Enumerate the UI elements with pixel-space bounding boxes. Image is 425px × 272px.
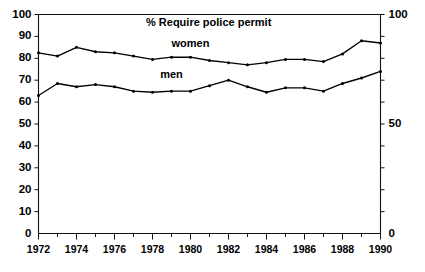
data-point bbox=[37, 51, 40, 54]
line-chart: 0102030405060708090100 050100 1972197419… bbox=[0, 0, 425, 272]
data-point bbox=[303, 58, 306, 61]
data-point bbox=[284, 86, 287, 89]
chart-container: 0102030405060708090100 050100 1972197419… bbox=[0, 0, 425, 272]
data-point bbox=[360, 77, 363, 80]
x-axis-tick-label: 1984 bbox=[255, 243, 279, 255]
data-point bbox=[265, 91, 268, 94]
data-series bbox=[37, 39, 382, 97]
data-point bbox=[246, 85, 249, 88]
data-point bbox=[303, 86, 306, 89]
data-point bbox=[379, 41, 382, 44]
data-point bbox=[37, 94, 40, 97]
x-axis-tick-label: 1988 bbox=[331, 243, 355, 255]
data-point bbox=[56, 82, 59, 85]
data-point bbox=[113, 51, 116, 54]
y-axis-tick-label-left: 20 bbox=[19, 183, 32, 195]
data-point bbox=[379, 70, 382, 73]
data-point bbox=[208, 59, 211, 62]
x-axis-tick-label: 1986 bbox=[293, 243, 317, 255]
data-point bbox=[208, 84, 211, 87]
y-axis-tick-label-left: 60 bbox=[19, 95, 32, 107]
axes bbox=[39, 15, 381, 234]
data-point bbox=[360, 39, 363, 42]
data-point bbox=[322, 90, 325, 93]
y-axis-labels-left: 0102030405060708090100 bbox=[12, 8, 31, 239]
data-point bbox=[132, 90, 135, 93]
y-axis-tick-label-right: 0 bbox=[389, 227, 395, 239]
series-men bbox=[37, 70, 382, 97]
data-point bbox=[75, 85, 78, 88]
y-axis-tick-label-left: 30 bbox=[19, 161, 32, 173]
y-axis-tick-label-left: 10 bbox=[19, 205, 32, 217]
x-axis-tick-label: 1972 bbox=[27, 243, 51, 255]
data-point bbox=[227, 79, 230, 82]
x-axis-tick-label: 1980 bbox=[179, 243, 203, 255]
data-point bbox=[322, 60, 325, 63]
axis-ticks bbox=[35, 15, 385, 240]
chart-title: % Require police permit bbox=[146, 16, 272, 28]
y-axis-tick-label-left: 90 bbox=[19, 29, 32, 41]
y-axis-tick-label-left: 70 bbox=[19, 73, 32, 85]
data-point bbox=[151, 91, 154, 94]
y-axis-tick-label-left: 40 bbox=[19, 139, 32, 151]
x-axis-labels: 1972197419761978198019821984198619881990 bbox=[27, 243, 393, 255]
data-point bbox=[341, 82, 344, 85]
x-axis-tick-label: 1978 bbox=[141, 243, 165, 255]
data-point bbox=[94, 83, 97, 86]
y-axis-labels-right: 050100 bbox=[389, 8, 408, 239]
series-line-men bbox=[39, 71, 381, 95]
x-axis-tick-label: 1990 bbox=[369, 243, 393, 255]
y-axis-tick-label-left: 0 bbox=[25, 227, 31, 239]
x-axis-tick-label: 1974 bbox=[65, 243, 89, 255]
series-label-women: women bbox=[171, 37, 210, 49]
y-axis-tick-label-right: 50 bbox=[389, 117, 402, 129]
data-point bbox=[56, 55, 59, 58]
data-point bbox=[189, 90, 192, 93]
data-point bbox=[265, 61, 268, 64]
y-axis-tick-label-right: 100 bbox=[389, 8, 408, 20]
series-label-men: men bbox=[160, 68, 183, 80]
data-point bbox=[151, 58, 154, 61]
x-axis-tick-label: 1982 bbox=[217, 243, 241, 255]
data-point bbox=[132, 55, 135, 58]
data-point bbox=[284, 58, 287, 61]
series-women bbox=[37, 39, 382, 66]
data-point bbox=[113, 85, 116, 88]
data-point bbox=[170, 90, 173, 93]
data-point bbox=[246, 63, 249, 66]
x-axis-tick-label: 1976 bbox=[103, 243, 127, 255]
y-axis-tick-label-left: 50 bbox=[19, 117, 32, 129]
data-point bbox=[75, 46, 78, 49]
y-axis-tick-label-left: 100 bbox=[12, 8, 31, 20]
data-point bbox=[170, 56, 173, 59]
data-point bbox=[227, 61, 230, 64]
data-point bbox=[341, 52, 344, 55]
y-axis-tick-label-left: 80 bbox=[19, 51, 32, 63]
data-point bbox=[189, 56, 192, 59]
data-point bbox=[94, 50, 97, 53]
